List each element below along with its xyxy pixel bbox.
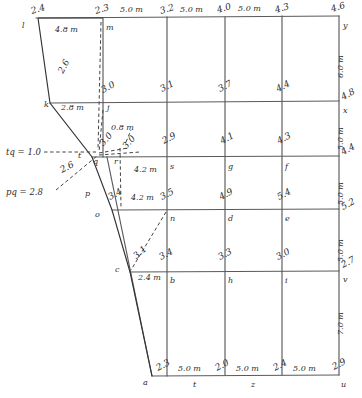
diagram-canvas: l 2.4 2.3 3.2 4.0 4.3 4.6 5.0 m 5.0 m 5.… [0,0,362,398]
left-boundary-line [38,18,152,376]
dash-q-to-r2 [99,152,140,155]
dash-n-to-c [131,212,166,270]
grid-line-h2 [50,101,339,103]
grid-line-bottom [152,375,339,376]
dash-0-8 [126,130,131,142]
dash-pq [56,156,97,190]
grid-drawing [0,0,362,398]
grid-line-h5 [130,271,339,272]
dash-j-to-q [99,110,103,152]
grid-line-h3 [92,156,339,157]
